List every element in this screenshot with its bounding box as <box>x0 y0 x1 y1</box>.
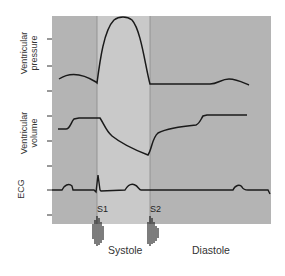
cardiac-cycle-plot <box>0 0 285 276</box>
s2-label: S2 <box>150 204 161 214</box>
cardiac-cycle-diagram: Ventricular pressure Ventricular volume … <box>0 0 285 276</box>
s1-label: S1 <box>97 204 108 214</box>
pressure-label-line1: Ventricular <box>19 23 29 83</box>
ecg-label-text: ECG <box>16 175 26 203</box>
systole-label: Systole <box>108 244 142 256</box>
volume-label-line1: Ventricular <box>19 103 29 163</box>
diastole-label: Diastole <box>192 244 230 256</box>
plot-panel <box>52 16 271 224</box>
pressure-label-line2: pressure <box>29 23 39 83</box>
ventricular-pressure-label: Ventricular pressure <box>19 23 41 83</box>
ecg-label: ECG <box>16 175 28 203</box>
y-axis-ticks <box>47 39 52 215</box>
ventricular-volume-label: Ventricular volume <box>19 103 41 163</box>
volume-label-line2: volume <box>29 103 39 163</box>
